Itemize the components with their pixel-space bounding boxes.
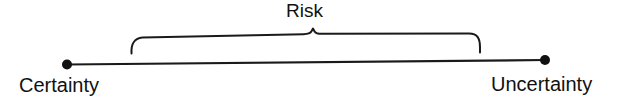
continuum-diagram: Risk Certainty Uncertainty xyxy=(0,0,625,103)
certainty-label: Certainty xyxy=(19,75,99,95)
risk-brace xyxy=(131,29,480,54)
uncertainty-label: Uncertainty xyxy=(491,74,592,94)
continuum-axis-line xyxy=(67,60,545,65)
certainty-endpoint-dot xyxy=(62,60,72,70)
risk-label: Risk xyxy=(286,1,323,20)
uncertainty-endpoint-dot xyxy=(540,55,550,65)
